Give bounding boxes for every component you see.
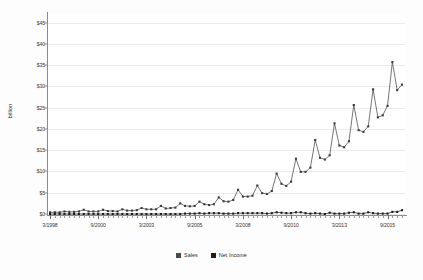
data-point xyxy=(208,212,210,214)
chart-legend: Sales Net Income xyxy=(0,252,423,258)
x-axis-tick-mark xyxy=(74,215,75,218)
x-axis-tick-label: 3/2013 xyxy=(332,222,347,228)
data-point xyxy=(251,195,253,197)
y-axis-tick-label: $30 xyxy=(5,83,45,89)
data-point xyxy=(160,205,162,207)
data-point xyxy=(295,158,297,160)
x-axis-tick-mark xyxy=(122,215,123,218)
x-axis-tick-mark xyxy=(93,215,94,218)
x-axis-tick-mark xyxy=(103,215,104,218)
chart-container: $0$5$10$15$20$25$30$35$40$45 billion 3/1… xyxy=(0,0,423,280)
legend-label-net-income: Net Income xyxy=(219,252,247,258)
y-axis-tick-label: $45 xyxy=(5,20,45,26)
data-point xyxy=(305,171,307,173)
x-axis-tick-mark xyxy=(204,215,205,218)
x-axis-tick-mark xyxy=(368,215,369,218)
x-axis-tick-mark xyxy=(166,215,167,218)
x-axis-tick-label: 3/2003 xyxy=(139,222,154,228)
data-point xyxy=(285,212,287,214)
data-point xyxy=(189,205,191,207)
y-axis-tick-mark xyxy=(44,128,47,129)
data-point xyxy=(300,171,302,173)
x-axis-tick-label: 9/2015 xyxy=(380,222,395,228)
data-point xyxy=(174,207,176,209)
data-point xyxy=(358,129,360,131)
data-point xyxy=(300,211,302,213)
x-axis-tick-mark xyxy=(113,215,114,218)
plot-area xyxy=(47,14,405,214)
x-axis-tick-mark xyxy=(238,215,239,218)
legend-item-net-income: Net Income xyxy=(211,252,247,258)
data-point xyxy=(227,201,229,203)
series-line-sales xyxy=(50,62,402,212)
data-point xyxy=(261,212,263,214)
data-point xyxy=(165,207,167,209)
x-axis-tick-mark xyxy=(64,215,65,218)
x-axis-tick-mark xyxy=(310,215,311,218)
x-axis-tick-mark xyxy=(334,215,335,218)
data-point xyxy=(242,212,244,214)
data-point xyxy=(242,196,244,198)
legend-swatch-sales xyxy=(176,253,181,258)
x-axis-tick-mark xyxy=(359,215,360,218)
data-point xyxy=(150,208,152,210)
x-axis-tick-mark xyxy=(233,215,234,218)
data-point xyxy=(223,200,225,202)
x-axis-tick-mark xyxy=(373,215,374,218)
data-point xyxy=(198,212,200,214)
data-point xyxy=(170,207,172,209)
data-point xyxy=(136,209,138,211)
x-axis-tick-label: 9/2010 xyxy=(283,222,298,228)
y-axis-tick-label: $5 xyxy=(5,190,45,196)
data-point xyxy=(107,210,109,212)
data-point xyxy=(276,173,278,175)
legend-label-sales: Sales xyxy=(184,252,198,258)
data-point xyxy=(372,88,374,90)
x-axis-tick-mark xyxy=(325,215,326,218)
data-point xyxy=(367,125,369,127)
x-axis-tick-mark xyxy=(60,215,61,218)
x-axis-tick-mark xyxy=(253,215,254,218)
data-point xyxy=(353,211,355,213)
x-axis-tick-mark xyxy=(397,215,398,218)
x-axis-tick-mark xyxy=(151,215,152,218)
x-axis-tick-mark xyxy=(281,215,282,218)
y-axis-tick-mark xyxy=(44,107,47,108)
data-point xyxy=(203,203,205,205)
data-point xyxy=(338,144,340,146)
data-point xyxy=(290,181,292,183)
x-axis-tick-mark xyxy=(291,215,292,219)
x-axis-tick-mark xyxy=(267,215,268,218)
data-point xyxy=(198,201,200,203)
data-point xyxy=(73,211,75,213)
x-axis-tick-label: 3/2008 xyxy=(235,222,250,228)
data-point xyxy=(213,203,215,205)
x-axis-tick-mark xyxy=(330,215,331,218)
x-axis-tick-mark xyxy=(224,215,225,218)
x-axis-tick-mark xyxy=(344,215,345,218)
x-axis-tick-mark xyxy=(320,215,321,218)
x-axis-tick-mark xyxy=(392,215,393,218)
data-point xyxy=(362,131,364,133)
x-axis-tick-label: 3/1998 xyxy=(42,222,57,228)
data-point xyxy=(88,210,90,212)
x-axis-tick-mark xyxy=(272,215,273,218)
y-axis-tick-mark xyxy=(44,192,47,193)
data-point xyxy=(237,212,239,214)
x-axis-tick-mark xyxy=(257,215,258,218)
data-point xyxy=(280,212,282,214)
data-point xyxy=(247,212,249,214)
data-point xyxy=(401,84,403,86)
x-axis-tick-mark xyxy=(127,215,128,218)
x-axis-tick-label: 9/2005 xyxy=(187,222,202,228)
data-point xyxy=(348,140,350,142)
x-axis-tick-mark xyxy=(55,215,56,218)
data-point xyxy=(194,205,196,207)
x-axis-tick-mark xyxy=(363,215,364,218)
x-axis-tick-mark xyxy=(277,215,278,218)
x-axis-tick-mark xyxy=(248,215,249,218)
y-axis-title: billion xyxy=(7,91,13,131)
data-point xyxy=(401,209,403,211)
data-point xyxy=(83,209,85,211)
data-point xyxy=(382,114,384,116)
